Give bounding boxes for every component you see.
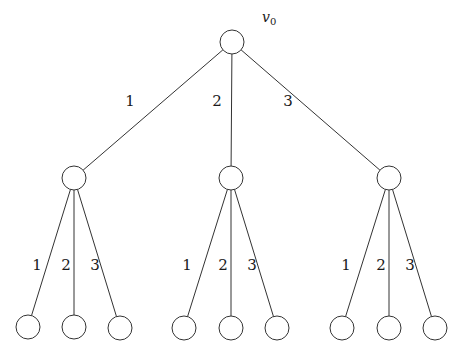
edge-c-c1	[346, 189, 386, 316]
tree-diagram: 123123123123 v0	[0, 0, 462, 359]
root-label-group: v0	[262, 9, 276, 27]
edge-label: 1	[182, 256, 192, 274]
tree-node-a1	[16, 315, 40, 339]
edge-label: 3	[405, 256, 415, 274]
edge-v0-c	[241, 50, 380, 170]
tree-node-b	[219, 166, 243, 190]
edge-label: 3	[90, 256, 100, 274]
tree-node-c1	[330, 316, 354, 340]
edge-b-b1	[188, 189, 228, 316]
tree-node-c3	[423, 316, 447, 340]
tree-svg: 123123123123 v0	[0, 0, 462, 359]
tree-node-a2	[62, 315, 86, 339]
edge-label: 3	[283, 92, 293, 110]
edge-label: 1	[125, 92, 135, 110]
edge-label: 2	[218, 256, 228, 274]
edge-label: 1	[341, 256, 351, 274]
edge-a-a3	[78, 189, 117, 316]
root-label: v0	[262, 9, 276, 27]
tree-node-c2	[377, 316, 401, 340]
tree-node-v0	[220, 30, 244, 54]
edge-label: 2	[212, 92, 222, 110]
edge-b-b3	[235, 189, 274, 316]
edge-c-c3	[393, 189, 432, 316]
tree-node-c	[377, 166, 401, 190]
tree-node-a	[62, 166, 86, 190]
tree-node-b1	[172, 316, 196, 340]
edge-label: 1	[32, 256, 42, 274]
edge-label: 3	[247, 256, 257, 274]
tree-node-b2	[219, 316, 243, 340]
edge-v0-b	[231, 54, 232, 166]
edge-label: 2	[61, 256, 71, 274]
edge-v0-a	[83, 50, 223, 170]
tree-node-a3	[108, 316, 132, 340]
tree-node-b3	[265, 316, 289, 340]
edge-label: 2	[376, 256, 386, 274]
edge-a-a1	[32, 189, 71, 315]
